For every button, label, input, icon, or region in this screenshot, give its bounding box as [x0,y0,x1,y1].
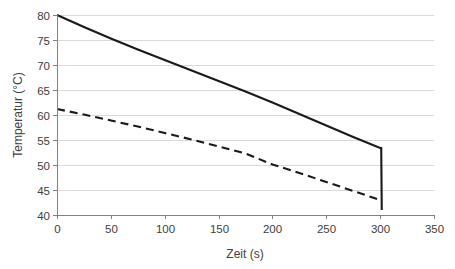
x-tick-label-200: 200 [263,223,282,235]
x-tick-label-0: 0 [54,223,60,235]
y-tick-label-60: 60 [37,110,50,122]
temperature-time-chart: 404550556065707580 050100150200250300350… [0,0,455,269]
x-tick-label-50: 50 [105,223,118,235]
y-tick-label-45: 45 [37,185,50,197]
x-tick-label-350: 350 [425,223,444,235]
y-tick-label-40: 40 [37,210,50,222]
x-tick-label-250: 250 [317,223,336,235]
y-tick-label-55: 55 [37,135,50,147]
y-tick-label-65: 65 [37,85,50,97]
x-tick-label-100: 100 [156,223,175,235]
chart-canvas: 404550556065707580 050100150200250300350… [0,0,455,269]
y-tick-label-50: 50 [37,160,50,172]
y-axis-title: Temperatur (°C) [11,72,25,157]
y-tick-label-75: 75 [37,35,50,47]
x-tick-label-300: 300 [371,223,390,235]
y-tick-label-70: 70 [37,60,50,72]
y-axis-tick-labels: 404550556065707580 [37,10,50,222]
x-tick-label-150: 150 [210,223,229,235]
x-axis-title: Zeit (s) [226,247,263,261]
y-tick-label-80: 80 [37,10,50,22]
